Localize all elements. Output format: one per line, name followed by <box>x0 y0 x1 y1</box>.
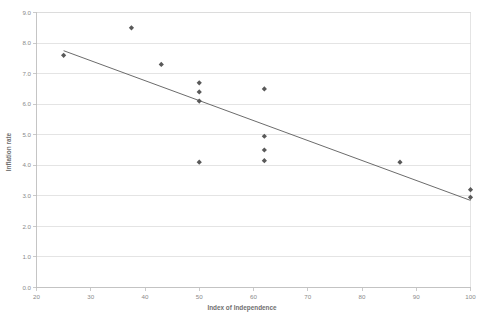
scatter-chart: 0.01.02.03.04.05.06.07.08.09.0 203040506… <box>0 0 484 319</box>
y-tick-label: 6.0 <box>22 100 31 107</box>
x-tick-label: 60 <box>250 293 257 300</box>
chart-canvas: 0.01.02.03.04.05.06.07.08.09.0 203040506… <box>0 0 484 319</box>
chart-background <box>0 0 484 319</box>
y-tick-label: 2.0 <box>22 223 31 230</box>
y-tick-label: 3.0 <box>22 192 31 199</box>
y-tick-label: 5.0 <box>22 131 31 138</box>
y-tick-label: 7.0 <box>22 70 31 77</box>
y-axis-title: Inflation rate <box>5 132 12 171</box>
x-tick-label: 70 <box>304 293 311 300</box>
x-axis-title: Index of Independence <box>207 304 277 312</box>
y-tick-label: 1.0 <box>22 253 31 260</box>
x-tick-label: 40 <box>142 293 149 300</box>
x-tick-label: 80 <box>359 293 366 300</box>
x-tick-label: 20 <box>33 293 40 300</box>
x-tick-label: 100 <box>465 293 476 300</box>
y-tick-label: 8.0 <box>22 39 31 46</box>
y-tick-label: 4.0 <box>22 161 31 168</box>
y-tick-label: 0.0 <box>22 284 31 291</box>
x-tick-label: 50 <box>196 293 203 300</box>
y-tick-label: 9.0 <box>22 9 31 16</box>
x-tick-label: 90 <box>413 293 420 300</box>
x-tick-label: 30 <box>87 293 94 300</box>
